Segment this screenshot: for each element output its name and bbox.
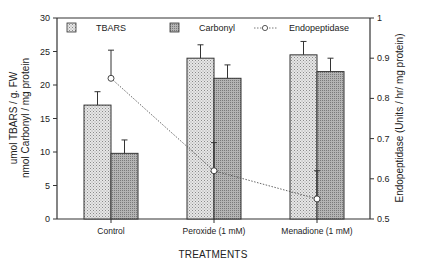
- left-tick-label: 25: [40, 47, 50, 57]
- x-axis-categories: ControlPeroxide (1 mM)Menadione (1 mM): [97, 219, 353, 236]
- right-tick-label: 0.6: [377, 174, 390, 184]
- y2-axis-label: Endopeptidase (Units / hr/ mg protein): [394, 34, 405, 203]
- left-tick-label: 20: [40, 80, 50, 90]
- left-y-axis: 051015202530: [40, 13, 57, 224]
- legend-carbonyl-label: Carbonyl: [199, 23, 235, 33]
- endopeptidase-marker-icon: [314, 196, 320, 202]
- legend: TBARS Carbonyl Endopeptidase: [67, 23, 349, 33]
- chart-container: 051015202530 0.50.60.70.80.91 ControlPer…: [0, 0, 425, 269]
- x-category-label: Control: [97, 226, 125, 236]
- right-tick-label: 0.7: [377, 134, 390, 144]
- endopeptidase-marker-icon: [211, 168, 217, 174]
- bar-tbars: [290, 55, 317, 219]
- legend-tbars-swatch: [67, 23, 76, 32]
- y-axis-label-line2: nmol Carbonyl / mg protein: [20, 58, 31, 178]
- legend-carbonyl-swatch: [170, 23, 179, 32]
- left-tick-label: 15: [40, 114, 50, 124]
- left-tick-label: 10: [40, 147, 50, 157]
- right-tick-label: 1: [377, 13, 382, 23]
- x-category-label: Peroxide (1 mM): [183, 226, 246, 236]
- legend-endopeptidase-marker-icon: [262, 25, 267, 30]
- legend-endopeptidase-label: Endopeptidase: [289, 23, 349, 33]
- bar-tbars: [84, 105, 111, 219]
- left-tick-label: 30: [40, 13, 50, 23]
- left-tick-label: 5: [45, 181, 50, 191]
- bar-carbonyl: [111, 153, 138, 219]
- bar-tbars: [187, 58, 214, 219]
- bar-carbonyl: [317, 72, 344, 219]
- left-tick-label: 0: [45, 214, 50, 224]
- right-tick-label: 0.9: [377, 53, 390, 63]
- right-tick-label: 0.8: [377, 93, 390, 103]
- x-category-label: Menadione (1 mM): [281, 226, 353, 236]
- endopeptidase-marker-icon: [108, 75, 114, 81]
- bar-series: [84, 41, 344, 219]
- bar-line-chart: 051015202530 0.50.60.70.80.91 ControlPer…: [0, 0, 425, 269]
- right-y-axis: 0.50.60.70.80.91: [370, 13, 390, 224]
- right-tick-label: 0.5: [377, 214, 390, 224]
- y-axis-label-line1: umol TBARS / g. FW: [8, 71, 19, 164]
- legend-tbars-label: TBARS: [96, 23, 126, 33]
- bar-carbonyl: [214, 78, 241, 219]
- x-axis-title: TREATMENTS: [178, 249, 247, 260]
